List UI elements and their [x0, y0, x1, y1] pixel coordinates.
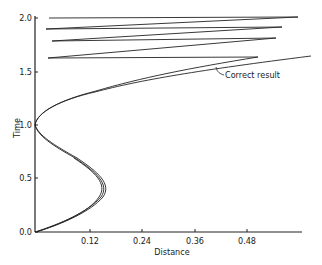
- annotation-label: Correct result: [225, 70, 280, 80]
- y-tick-label: 2.0: [19, 13, 32, 23]
- x-tick-label: 0.36: [186, 236, 204, 246]
- y-tick-label: 1.5: [19, 67, 32, 77]
- x-tick-label: 0.12: [81, 236, 99, 246]
- x-tick-label: 0.48: [238, 236, 256, 246]
- numerical-curve: [35, 17, 298, 232]
- y-tick-label: 0.5: [19, 173, 32, 183]
- plot-area: 0.0 0.5 1.0 1.5 2.0 0.12 0.24 0.36 0.48 …: [0, 0, 322, 265]
- y-axis-label: Time: [12, 118, 22, 139]
- x-tick-label: 0.24: [133, 236, 151, 246]
- y-tick-label: 0.0: [19, 227, 32, 237]
- correct-result-curve: [35, 56, 311, 232]
- x-axis-label: Distance: [154, 247, 189, 257]
- chart: 0.0 0.5 1.0 1.5 2.0 0.12 0.24 0.36 0.48 …: [0, 0, 322, 265]
